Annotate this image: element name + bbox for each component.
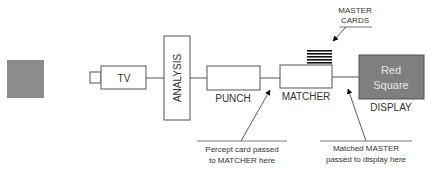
punch-label: PUNCH: [215, 93, 251, 104]
display-label: DISPLAY: [370, 102, 412, 113]
analysis-label: ANALYSIS: [172, 54, 183, 102]
master-cards-arrow-icon: [333, 27, 346, 41]
percept-callout-line1: Percept card passed: [205, 145, 278, 154]
master-cards-label-line2: CARDS: [341, 16, 369, 25]
master-cards-label-line1: MASTER: [338, 6, 372, 15]
matched-callout-line1: Matched MASTER: [333, 144, 399, 153]
stimulus-gray-square: [7, 60, 44, 98]
master-cards-stack-icon: [307, 50, 332, 64]
diagram-canvas: TV ANALYSIS PUNCH MATCHER Red Square DIS…: [0, 0, 434, 174]
matcher-box: [280, 65, 332, 88]
display-content-line2: Square: [373, 79, 408, 91]
display-box: [359, 55, 424, 99]
matcher-label: MATCHER: [282, 91, 331, 102]
matched-callout-line2: passed to display here: [326, 155, 407, 164]
tv-label: TV: [118, 73, 131, 84]
tv-lens-icon: [90, 72, 101, 83]
display-content-line1: Red: [381, 64, 401, 76]
percept-callout-line2: to MATCHER here: [209, 156, 276, 165]
punch-box: [207, 66, 260, 90]
